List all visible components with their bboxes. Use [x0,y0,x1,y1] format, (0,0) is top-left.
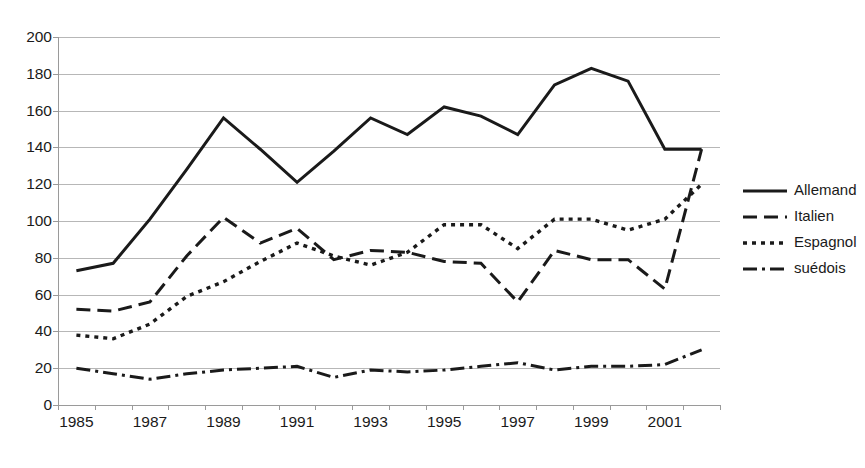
legend-swatch-solid-icon [742,183,788,195]
x-tick-mark [463,405,464,410]
x-tick-mark [389,405,390,410]
x-tick-mark [426,405,427,410]
x-tick-mark [95,405,96,410]
x-tick-mark [58,405,59,410]
y-tick-mark [53,184,58,185]
x-tick-mark [573,405,574,410]
y-tick-mark [53,111,58,112]
chart-legend: AllemandItalienEspagnolsuédois [742,176,862,280]
x-tick-mark [205,405,206,410]
legend-item-italien[interactable]: Italien [742,202,862,228]
legend-item-espagnol[interactable]: Espagnol [742,228,862,254]
x-tick-mark [720,405,721,410]
x-tick-mark [536,405,537,410]
y-tick-mark [53,37,58,38]
x-tick-mark [132,405,133,410]
y-tick-mark [53,147,58,148]
line-chart: 020406080100120140160180200 198519871989… [0,0,865,468]
legend-swatch-dotted-icon [742,235,788,247]
x-tick-mark [683,405,684,410]
legend-label: suédois [794,260,846,275]
y-tick-mark [53,331,58,332]
series-layer [0,0,865,468]
series-line-espagnol [76,184,701,339]
x-tick-mark [168,405,169,410]
x-tick-mark [646,405,647,410]
y-tick-mark [53,295,58,296]
x-tick-mark [352,405,353,410]
legend-item-allemand[interactable]: Allemand [742,176,862,202]
series-line-italien [76,149,701,311]
legend-label: Espagnol [794,234,857,249]
legend-label: Italien [794,208,834,223]
x-tick-mark [499,405,500,410]
y-tick-mark [53,258,58,259]
legend-swatch-dashed-icon [742,209,788,221]
x-tick-mark [315,405,316,410]
y-tick-mark [53,74,58,75]
legend-label: Allemand [794,182,857,197]
series-line-suédois [76,350,701,379]
y-tick-mark [53,368,58,369]
x-tick-mark [610,405,611,410]
legend-item-suédois[interactable]: suédois [742,254,862,280]
x-tick-mark [279,405,280,410]
series-line-allemand [76,68,701,270]
x-tick-mark [242,405,243,410]
y-tick-mark [53,221,58,222]
legend-swatch-dashdot-icon [742,261,788,273]
